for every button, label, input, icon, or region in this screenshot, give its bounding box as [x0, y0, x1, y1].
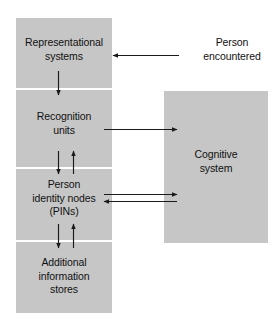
diagram-canvas: Representational systems Recognition uni…: [0, 0, 279, 330]
label-person-encountered: Person encountered: [186, 36, 278, 63]
stage-divider-1: [16, 88, 112, 90]
stage-divider-3: [16, 240, 112, 242]
label-recognition-units: Recognition units: [16, 110, 112, 137]
label-cognitive-system: Cognitive system: [164, 148, 268, 175]
label-additional-information-stores: Additional information stores: [16, 256, 112, 297]
stage-divider-2: [16, 167, 112, 169]
label-person-identity-nodes: Person identity nodes (PINs): [14, 178, 114, 219]
label-representational-systems: Representational systems: [16, 36, 112, 63]
